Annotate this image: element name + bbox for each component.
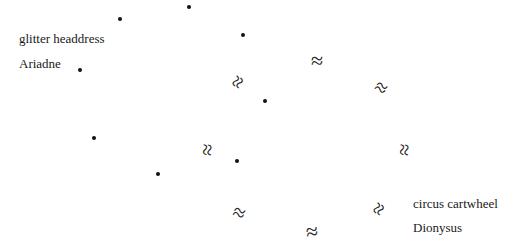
dot-marker	[118, 17, 122, 21]
approx-symbol-icon: ≈	[300, 220, 325, 245]
diagram-canvas: glitter headdress Ariadne circus cartwhe…	[0, 0, 523, 250]
dot-marker	[92, 136, 96, 140]
approx-symbol-icon: ≈	[364, 194, 394, 224]
dot-marker	[187, 5, 191, 9]
dot-marker	[235, 159, 239, 163]
label-dionysus: Dionysus	[413, 220, 462, 235]
approx-symbol-icon: ≈	[392, 138, 416, 162]
approx-symbol-icon: ≈	[366, 73, 396, 103]
label-glitter-headdress: glitter headdress	[19, 31, 105, 46]
approx-symbol-icon: ≈	[225, 199, 253, 227]
dot-marker	[241, 33, 245, 37]
dot-marker	[156, 172, 160, 176]
dot-marker	[263, 99, 267, 103]
label-ariadne: Ariadne	[19, 56, 61, 71]
approx-symbol-icon: ≈	[195, 138, 219, 162]
approx-symbol-icon: ≈	[306, 50, 328, 72]
approx-symbol-icon: ≈	[223, 67, 253, 97]
label-circus-cartwheel: circus cartwheel	[413, 196, 498, 211]
dot-marker	[78, 68, 82, 72]
